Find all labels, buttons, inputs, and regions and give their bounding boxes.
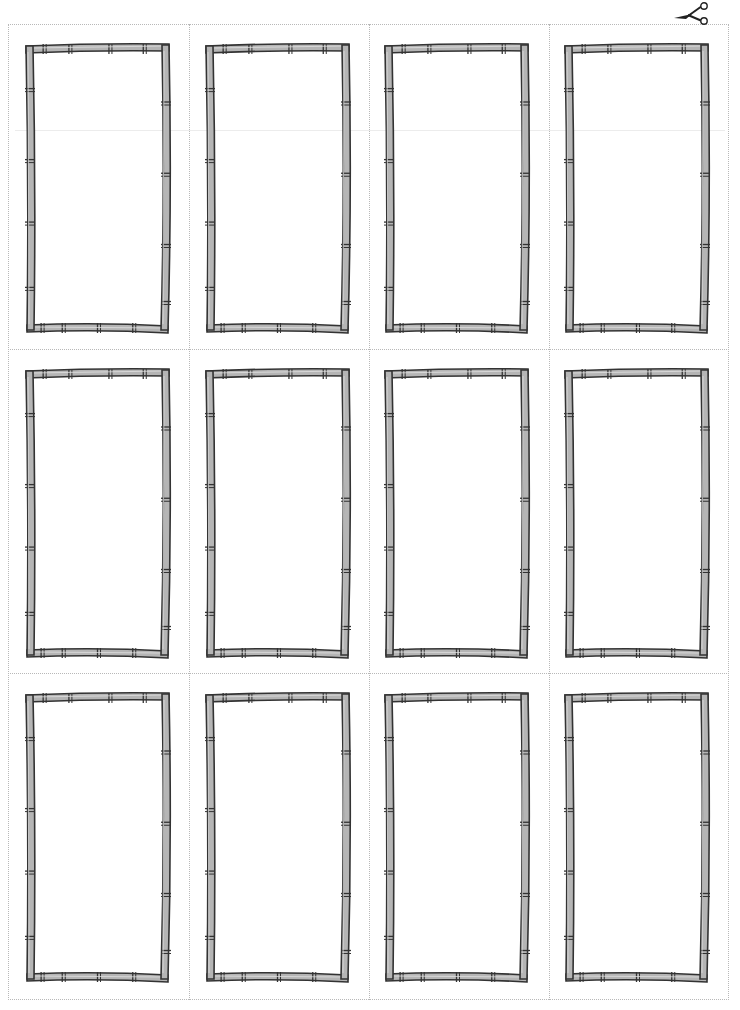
bamboo-frame-icon — [204, 691, 352, 983]
bamboo-frame-icon — [563, 367, 711, 659]
cut-line-vertical — [549, 24, 550, 1000]
bamboo-frame-icon — [383, 691, 531, 983]
cut-line-horizontal — [8, 349, 729, 350]
bamboo-frame-icon — [204, 42, 352, 334]
bamboo-frame-card — [204, 367, 352, 659]
cut-line-vertical — [189, 24, 190, 1000]
bamboo-frame-icon — [563, 42, 711, 334]
bamboo-frame-icon — [563, 691, 711, 983]
bamboo-frame-card — [563, 691, 711, 983]
bamboo-frame-card — [383, 691, 531, 983]
scissors-icon — [672, 2, 712, 26]
bamboo-frame-card — [204, 42, 352, 334]
bamboo-frame-card — [563, 42, 711, 334]
bamboo-frame-card — [24, 367, 172, 659]
bamboo-frame-card — [383, 367, 531, 659]
bamboo-frame-icon — [383, 42, 531, 334]
bamboo-frame-card — [24, 42, 172, 334]
bamboo-frame-card — [204, 691, 352, 983]
bamboo-frame-icon — [204, 367, 352, 659]
bamboo-frame-card — [24, 691, 172, 983]
bamboo-frame-icon — [24, 42, 172, 334]
bamboo-frame-card — [383, 42, 531, 334]
bamboo-frame-icon — [24, 691, 172, 983]
cut-line-vertical — [369, 24, 370, 1000]
bamboo-frame-card — [563, 367, 711, 659]
bamboo-frame-icon — [383, 367, 531, 659]
cut-line-horizontal — [8, 673, 729, 674]
bamboo-frame-icon — [24, 367, 172, 659]
